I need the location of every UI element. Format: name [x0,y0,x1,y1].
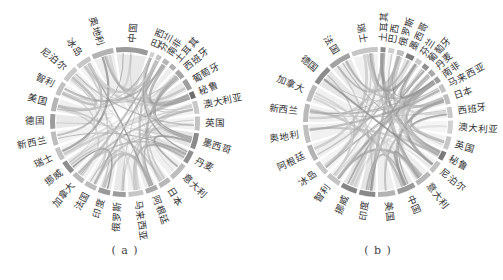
ring-segment-西班牙 [446,106,452,118]
ring-segment-秘鲁 [189,91,196,99]
ring-segment-俄罗斯 [396,50,404,57]
node-label: 西班牙 [456,101,487,116]
node-label: 澳大利亚 [457,121,498,135]
node-label: 新西兰 [268,102,299,117]
node-label: 中国 [405,193,423,216]
chords-group [56,53,194,191]
node-label: 奥地利 [87,15,107,47]
node-label: 英国 [205,117,225,128]
node-label: 美国 [27,91,49,107]
node-label: 阿根廷 [276,150,308,173]
ring-segment-美国 [378,190,396,197]
ring-segment-澳大利亚 [192,100,199,114]
node-label: 墨西哥 [201,137,233,155]
node-label: 智利 [34,71,57,90]
node-label: 奥地利 [268,129,299,145]
panel-caption-a: ( a ) [105,244,145,257]
ring-segment-巴西 [149,52,155,58]
node-label: 日本 [452,85,474,102]
node-label: 挪威 [42,166,65,187]
node-label: 冰岛 [296,167,318,188]
node-label: 印度 [357,200,371,221]
panel-caption-b: ( b ) [358,244,398,257]
node-label: 瑞士 [355,22,369,44]
node-label: 意大利 [424,180,451,210]
ring-segment-澳大利亚 [447,121,453,134]
node-label: 挪威 [332,193,350,216]
node-label: 法国 [72,190,91,213]
ring-segment-巴西 [388,48,395,54]
node-label: 德国 [298,53,320,74]
node-label: 丹麦 [193,155,216,174]
node-label: 德国 [25,115,45,126]
node-label: 尼泊尔 [39,45,69,73]
node-label: 日本 [165,186,185,209]
ring-segment-新西兰 [303,103,310,122]
ring-segment-俄罗斯 [112,191,125,197]
node-label: 印度 [90,197,106,219]
node-label: 新西兰 [16,134,48,152]
chords-group [309,53,447,191]
ring-segment-印度 [359,190,376,197]
ring-segment-土耳其 [380,47,385,52]
node-label: 中国 [126,22,139,43]
node-label: 瑞士 [32,151,55,170]
chord-diagram-panel-a: 中国巴西芬兰南非土耳其西班牙葡萄牙秘鲁澳大利亚英国墨西哥丹麦意大利日本阿根廷马来… [0,0,251,280]
node-label: 澳大利亚 [202,91,243,110]
ring-segment-德国 [50,114,55,129]
node-label: 意大利 [180,172,209,201]
node-label: 英国 [453,139,475,155]
ring-segment-马来西亚 [128,190,143,197]
node-label: 马来西亚 [133,200,150,241]
node-label: 冰岛 [65,36,85,59]
node-label: 法国 [322,34,342,57]
ring-segment-英国 [195,116,200,130]
chord-diagram-b: 土耳其巴西俄罗斯墨西哥芬兰葡萄牙丹麦南非马来西亚日本西班牙澳大利亚英国秘鲁尼泊尔… [251,0,502,280]
node-label: 阿根廷 [150,194,171,226]
ring-segment-芬兰 [155,54,162,61]
node-label: 智利 [312,181,333,204]
node-label: 加拿大 [275,73,307,95]
node-label: 美国 [383,201,396,222]
chord-diagram-a: 中国巴西芬兰南非土耳其西班牙葡萄牙秘鲁澳大利亚英国墨西哥丹麦意大利日本阿根廷马来… [0,0,251,280]
node-label: 俄罗斯 [110,201,123,232]
chord-diagram-panel-b: 土耳其巴西俄罗斯墨西哥芬兰葡萄牙丹麦南非马来西亚日本西班牙澳大利亚英国秘鲁尼泊尔… [251,0,502,280]
